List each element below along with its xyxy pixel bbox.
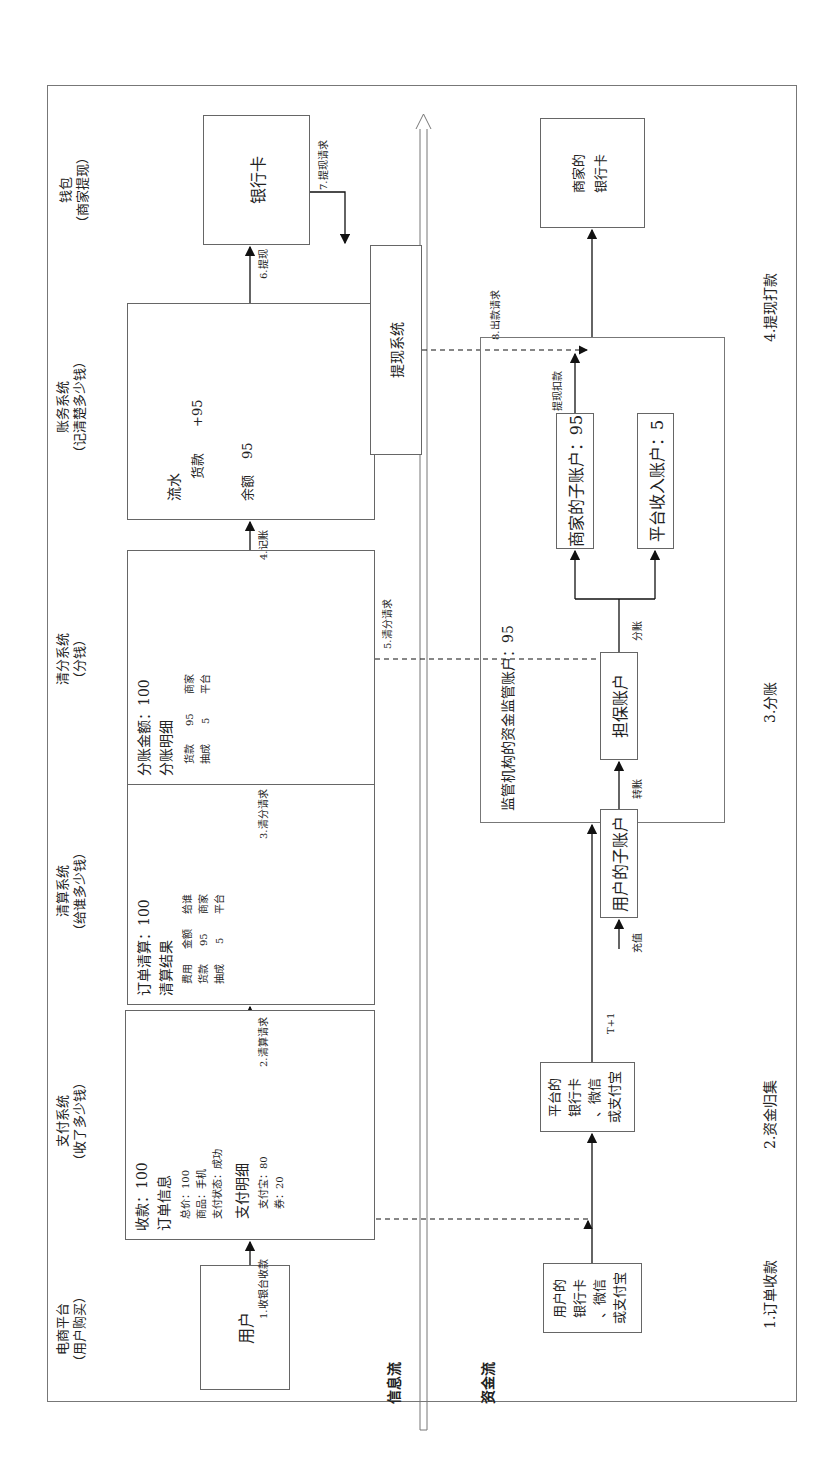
payment-detail: 支付明细 <box>234 1163 252 1219</box>
stage-3: 3.分账 <box>762 682 780 723</box>
arrow-label-2: 2.清算请求 <box>258 1017 271 1067</box>
stage-1: 1.订单收款 <box>762 1260 780 1329</box>
arrow-label-7: 7.提现请求 <box>318 140 331 190</box>
merchant-sub-account-box: 商家的子账户：95 <box>556 413 594 549</box>
money-flow-label: 资金流 <box>480 1362 498 1404</box>
arrow-label-5: 5.清分请求 <box>382 599 395 649</box>
platform-bank-box: 平台的 银行卡 、微信 或支付宝 <box>540 1062 635 1132</box>
stage-2: 2.资金归集 <box>762 1080 780 1149</box>
arrow-label-4: 4.记账 <box>258 530 271 560</box>
diagram-canvas: 电商平台 （用户购买） 支付系统 （收了多少钱） 清算系统 （给谁多少钱） 清分… <box>0 0 823 1479</box>
info-flow-label: 信息流 <box>386 1362 404 1404</box>
money-label-withdraw-deduct: 提现扣款 <box>552 371 565 411</box>
splitting-system-box: 分账金额：100 分账明细 货款 95 商家 抽成 5 平台 <box>127 550 375 785</box>
money-label-t1: T+1 <box>605 1013 618 1034</box>
clearing-system-box: 订单清算：100 清算结果 费用 金额 给谁 货款 95 商家 抽成 5 平台 <box>127 778 375 1005</box>
column-title-wallet: 钱包 （商家提现） <box>58 130 92 250</box>
column-title-clearing: 清算系统 （给谁多少钱） <box>55 831 89 951</box>
payment-system-box: 收款：100 订单信息 总价：100 商品：手机 支付状态：成功 支付明细 支付… <box>125 1010 375 1240</box>
money-label-transfer: 转账 <box>632 779 645 799</box>
arrow-label-3: 3.清分请求 <box>258 789 271 839</box>
escrow-account-box: 担保账户 <box>600 652 638 760</box>
payment-order-info: 订单信息 <box>156 1175 174 1231</box>
money-label-split: 分账 <box>632 621 645 641</box>
withdraw-system-box: 提现系统 <box>370 245 422 455</box>
user-bank-box: 用户的 银行卡 、微信 或支付宝 <box>543 1263 642 1333</box>
column-title-ecommerce: 电商平台 （用户购买） <box>55 1274 89 1384</box>
arrow-label-1: 1.收银台收款 <box>258 1259 271 1319</box>
column-title-accounting: 账务系统 （记清楚多少钱） <box>55 337 89 477</box>
arrow-label-6: 6.提现 <box>258 249 271 279</box>
arrow-7 <box>310 192 345 243</box>
column-title-splitting: 清分系统 （分钱） <box>55 599 89 719</box>
user-box: 用户 <box>200 1265 290 1390</box>
money-label-recharge: 充值 <box>632 933 645 953</box>
column-title-payment: 支付系统 （收了多少钱） <box>55 1061 89 1181</box>
platform-income-account-box: 平台收入账户：5 <box>637 413 674 549</box>
custody-account-title: 监管机构的资金监管账户：95 <box>500 625 518 811</box>
stage-4: 4.提现打款 <box>762 273 780 342</box>
merchant-bank-box: 商家的 银行卡 <box>540 118 645 228</box>
payment-receipt: 收款：100 <box>134 1162 152 1231</box>
accounting-system-box: 流水 货款 +95 余额 95 <box>127 303 375 520</box>
user-sub-account-box: 用户的子账户 <box>600 809 638 918</box>
bank-card-box: 银行卡 <box>203 115 310 245</box>
arrow-label-8: 8.出款请求 <box>490 290 503 340</box>
